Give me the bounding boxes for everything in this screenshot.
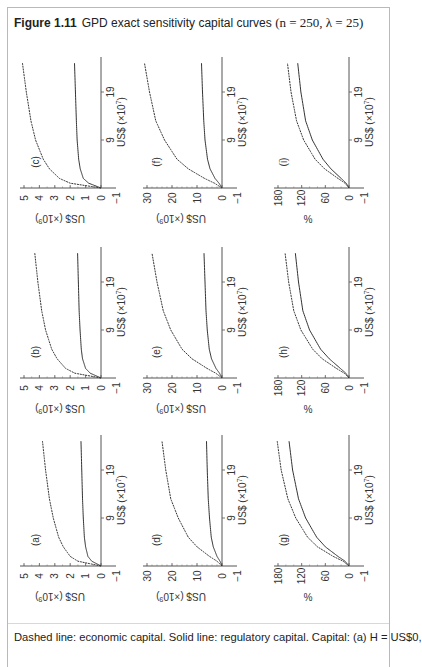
value-tick-label: 120 <box>296 379 307 396</box>
y-axis-label: % <box>303 591 312 602</box>
value-tick-label: 30 <box>142 382 153 394</box>
panel-title: (i) <box>278 158 289 167</box>
value-tick-label: 20 <box>167 570 178 582</box>
x-axis-label: US$ (×107) <box>115 97 127 147</box>
value-tick-label: 0 <box>217 385 228 391</box>
value-tick-label: 4 <box>34 573 45 579</box>
x-tick-label: 19 <box>353 464 364 476</box>
value-tick-label: 10 <box>192 192 203 204</box>
x-tick-label: 9 <box>353 515 364 521</box>
x-axis-label: US$ (×107) <box>236 287 248 337</box>
x-axis-label: US$ (×107) <box>363 475 375 525</box>
x-tick-label: 9 <box>353 327 364 333</box>
value-tick-label: 120 <box>296 189 307 206</box>
y-axis-label: US$ (×109) <box>35 213 85 225</box>
x-tick-label: 19 <box>226 86 237 98</box>
regulatory-capital-line <box>75 63 101 188</box>
value-tick-label: 2 <box>65 195 76 201</box>
x-tick-label: 19 <box>105 464 116 476</box>
value-tick-label: 0 <box>217 573 228 579</box>
value-tick-label: 0 <box>344 573 355 579</box>
figure-caption: Dashed line: economic capital. Solid lin… <box>14 631 422 643</box>
x-tick-label: 9 <box>105 515 116 521</box>
value-tick-label: 60 <box>320 382 331 394</box>
value-tick-label: −1 <box>359 382 370 394</box>
value-tick-label: −1 <box>232 192 243 204</box>
value-tick-label: 0 <box>344 195 355 201</box>
x-tick-label: 19 <box>353 86 364 98</box>
panel-a: 543210−1919US$ (×107)US$ (×109)(a) <box>19 435 128 603</box>
value-tick-label: 5 <box>19 573 30 579</box>
value-tick-label: 10 <box>192 570 203 582</box>
x-tick-label: 9 <box>353 137 364 143</box>
value-tick-label: −1 <box>111 192 122 204</box>
value-tick-label: −1 <box>111 382 122 394</box>
panel-i: 180120600−1919US$ (×107)%(i) <box>273 57 376 224</box>
panel-title: (h) <box>278 346 289 358</box>
x-tick-label: 9 <box>105 327 116 333</box>
value-tick-label: −1 <box>232 382 243 394</box>
panel-title: (d) <box>151 534 162 546</box>
panel-h: 180120600−1919US$ (×107)%(h) <box>273 247 376 414</box>
x-tick-label: 9 <box>226 137 237 143</box>
x-tick-label: 19 <box>105 276 116 288</box>
economic-capital-line <box>22 63 101 188</box>
value-tick-label: 0 <box>96 195 107 201</box>
value-tick-label: −1 <box>359 570 370 582</box>
y-axis-label: US$ (×109) <box>156 403 206 415</box>
value-tick-label: 30 <box>142 570 153 582</box>
value-tick-label: 0 <box>96 573 107 579</box>
regulatory-capital-line <box>298 63 349 188</box>
panel-b: 543210−1919US$ (×107)US$ (×109)(b) <box>19 247 128 415</box>
panel-title: (e) <box>151 346 162 358</box>
x-axis-label: US$ (×107) <box>115 475 127 525</box>
value-tick-label: 4 <box>34 195 45 201</box>
value-tick-label: 10 <box>192 382 203 394</box>
y-axis-label: US$ (×109) <box>35 403 85 415</box>
regulatory-capital-line <box>78 253 101 378</box>
x-tick-label: 9 <box>226 515 237 521</box>
x-tick-label: 19 <box>226 276 237 288</box>
x-tick-label: 19 <box>105 86 116 98</box>
value-tick-label: 5 <box>19 195 30 201</box>
y-axis-label: % <box>303 403 312 414</box>
regulatory-capital-line <box>204 253 222 378</box>
y-axis-label: US$ (×109) <box>156 591 206 603</box>
value-tick-label: 3 <box>49 385 60 391</box>
y-axis-label: US$ (×109) <box>156 213 206 225</box>
y-axis-label: US$ (×109) <box>35 591 85 603</box>
regulatory-capital-line <box>202 63 223 188</box>
panel-g: 180120600−1919US$ (×107)%(g) <box>273 435 376 602</box>
panel-title: (a) <box>30 534 41 546</box>
value-tick-label: 1 <box>80 573 91 579</box>
economic-capital-line <box>277 441 349 566</box>
x-axis-label: US$ (×107) <box>115 287 127 337</box>
economic-capital-line <box>35 253 101 378</box>
x-axis-label: US$ (×107) <box>363 287 375 337</box>
economic-capital-line <box>287 63 349 188</box>
regulatory-capital-line <box>207 441 223 566</box>
economic-capital-line <box>42 441 101 566</box>
caption-divider <box>8 623 389 624</box>
x-tick-label: 9 <box>226 327 237 333</box>
economic-capital-line <box>285 253 349 378</box>
value-tick-label: 5 <box>19 385 30 391</box>
value-tick-label: 20 <box>167 382 178 394</box>
panel-f: 3020100−1919US$ (×107)US$ (×109)(f) <box>142 57 249 225</box>
value-tick-label: 4 <box>34 385 45 391</box>
panel-title: (g) <box>278 534 289 546</box>
value-tick-label: 0 <box>217 195 228 201</box>
x-tick-label: 19 <box>353 276 364 288</box>
chart-grid: 543210−1919US$ (×107)US$ (×109)(c)302010… <box>0 0 393 625</box>
x-axis-label: US$ (×107) <box>363 97 375 147</box>
x-axis-label: US$ (×107) <box>236 475 248 525</box>
x-axis-label: US$ (×107) <box>236 97 248 147</box>
x-tick-label: 9 <box>105 137 116 143</box>
panel-title: (b) <box>30 346 41 358</box>
value-tick-label: −1 <box>111 570 122 582</box>
panel-e: 3020100−1919US$ (×107)US$ (×109)(e) <box>142 247 249 415</box>
regulatory-capital-line <box>295 253 349 378</box>
panel-d: 3020100−1919US$ (×107)US$ (×109)(d) <box>142 435 249 603</box>
value-tick-label: 60 <box>320 192 331 204</box>
value-tick-label: −1 <box>359 192 370 204</box>
